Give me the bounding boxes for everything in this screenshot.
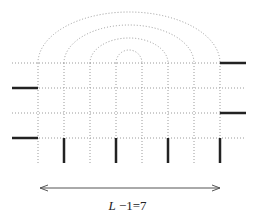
length-label: L −1=7 <box>0 198 255 214</box>
arc-line <box>90 38 168 63</box>
arc-line <box>116 50 142 63</box>
lattice-diagram <box>0 0 255 222</box>
length-expression: −1=7 <box>116 198 147 213</box>
arc-line <box>64 25 194 63</box>
length-variable: L <box>108 198 115 213</box>
